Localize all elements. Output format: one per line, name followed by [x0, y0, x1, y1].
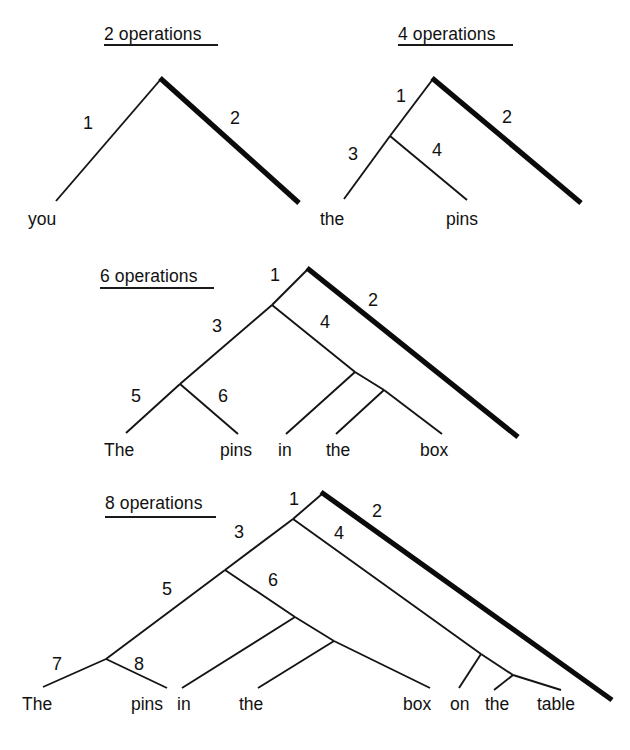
tree4-word-box: box — [403, 694, 431, 715]
tree2-operation-label-4: 4 — [432, 140, 442, 161]
tree2-word-the: the — [320, 209, 344, 230]
tree1-title: 2 operations — [104, 24, 202, 45]
tree2-word-pins: pins — [446, 209, 478, 230]
tree3-title: 6 operations — [100, 266, 198, 287]
branch-in-tree3 — [286, 372, 355, 434]
tree2-title: 4 operations — [398, 24, 496, 45]
tree4-title: 8 operations — [105, 493, 203, 514]
tree3-operation-label-4: 4 — [320, 312, 330, 333]
tree4-operation-label-6: 6 — [268, 570, 278, 591]
tree3-word-pins: pins — [220, 440, 252, 461]
tree4-operation-label-3: 3 — [234, 522, 244, 543]
tree4-operation-label-4: 4 — [334, 523, 344, 544]
tree-line-canvas — [0, 0, 630, 750]
tree4-operation-label-2: 2 — [372, 501, 382, 522]
branch-table-tree4 — [513, 675, 561, 690]
tree3-operation-label-6: 6 — [218, 386, 228, 407]
tree3-operation-label-2: 2 — [368, 290, 378, 311]
tree1-operation-label-2: 2 — [230, 108, 240, 129]
branch-the-tree4 — [258, 641, 334, 688]
tree4-operation-label-1: 1 — [289, 489, 299, 510]
tree2-operation-label-1: 1 — [396, 86, 406, 107]
tree4-operation-label-5: 5 — [162, 579, 172, 600]
tree2-operation-label-2: 2 — [502, 107, 512, 128]
tree2-operation-label-3: 3 — [348, 144, 358, 165]
branch-4-tree3 — [272, 305, 355, 372]
tree4-word-on: on — [450, 694, 469, 715]
tree4-operation-label-8: 8 — [134, 654, 144, 675]
branch-nodeG-tree4 — [481, 654, 513, 675]
branch-on-tree4 — [459, 654, 481, 688]
tree3-word-in: in — [278, 440, 292, 461]
branch-box-tree4 — [334, 641, 430, 688]
tree3-operation-label-5: 5 — [131, 386, 141, 407]
branch-2-tree1 — [160, 78, 299, 203]
tree3-word-the: the — [326, 440, 350, 461]
branch-3-tree3 — [180, 305, 272, 384]
tree-4-operations-lines — [344, 45, 581, 203]
tree4-operation-label-7: 7 — [52, 654, 62, 675]
tree4-word-the2: the — [485, 694, 509, 715]
branch-the2-tree4 — [494, 675, 513, 690]
tree1-word-you: you — [28, 209, 56, 230]
tree1-operation-label-1: 1 — [83, 113, 93, 134]
tree-8-operations-lines — [43, 492, 612, 700]
branch-nodeD-tree3 — [355, 372, 384, 390]
tree3-operation-label-3: 3 — [212, 316, 222, 337]
parse-tree-figure: 2 operations 1 2 you 4 operations 1 2 3 … — [0, 0, 630, 750]
branch-4-tree2 — [390, 136, 467, 200]
tree4-word-The: The — [22, 694, 52, 715]
tree-6-operations-lines — [100, 268, 518, 437]
branch-6-tree4 — [225, 570, 295, 617]
tree3-word-box: box — [420, 440, 448, 461]
branch-2-tree4 — [321, 492, 612, 700]
branch-the-tree3 — [336, 390, 384, 434]
tree4-word-table: table — [537, 694, 575, 715]
tree4-word-in: in — [177, 694, 191, 715]
tree3-word-The: The — [104, 440, 134, 461]
branch-in-tree4 — [182, 617, 295, 688]
tree3-operation-label-1: 1 — [270, 265, 280, 286]
branch-6-tree3 — [180, 384, 238, 434]
tree4-word-the: the — [239, 694, 263, 715]
tree4-word-pins: pins — [131, 694, 163, 715]
branch-box-tree3 — [384, 390, 442, 434]
branch-2-tree2 — [432, 78, 581, 203]
branch-nodeE-tree4 — [295, 617, 334, 641]
branch-1-tree1 — [56, 79, 161, 201]
